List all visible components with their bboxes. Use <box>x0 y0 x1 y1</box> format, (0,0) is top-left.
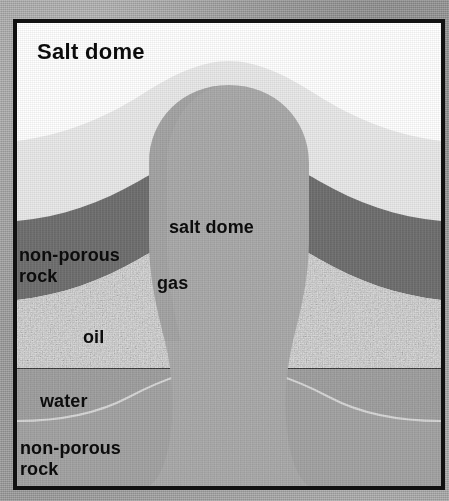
page-background: Salt dome salt dome gas oil water non-po… <box>0 0 449 501</box>
label-oil: oil <box>83 327 104 348</box>
label-non-porous-rock-upper: non-porous rock <box>19 245 120 286</box>
figure-title: Salt dome <box>37 39 145 64</box>
figure-frame: Salt dome salt dome gas oil water non-po… <box>13 19 445 490</box>
label-gas: gas <box>157 273 188 294</box>
figure-canvas: Salt dome salt dome gas oil water non-po… <box>17 23 441 486</box>
label-water: water <box>40 391 88 412</box>
label-non-porous-rock-lower: non-porous rock <box>20 438 121 479</box>
label-salt-dome: salt dome <box>169 217 254 238</box>
